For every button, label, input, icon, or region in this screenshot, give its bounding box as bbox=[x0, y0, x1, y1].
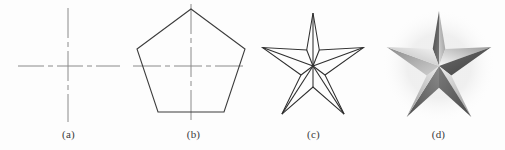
panel-c-caption: (c) bbox=[251, 127, 376, 141]
radial-line-outer-3 bbox=[313, 66, 344, 114]
centerlines-drawing bbox=[6, 0, 131, 128]
panel-d-caption: (d) bbox=[376, 127, 501, 141]
pentagon-drawing bbox=[131, 0, 256, 128]
panel-a-caption: (a) bbox=[6, 127, 131, 141]
radial-line-inner-4 bbox=[301, 66, 313, 75]
shaded-star-drawing bbox=[376, 0, 501, 128]
figure-container: (a) (b) bbox=[0, 0, 505, 150]
wireframe-star-drawing bbox=[251, 0, 376, 128]
panel-b-pentagon: (b) bbox=[131, 0, 256, 150]
panel-d-shaded-star: (d) bbox=[376, 0, 501, 150]
radial-line-outer-4 bbox=[282, 66, 313, 114]
panel-b-caption: (b) bbox=[131, 127, 256, 141]
panel-c-wireframe-star: (c) bbox=[251, 0, 376, 150]
radial-line-inner-2 bbox=[313, 66, 325, 75]
panel-a-centerlines: (a) bbox=[6, 0, 131, 150]
